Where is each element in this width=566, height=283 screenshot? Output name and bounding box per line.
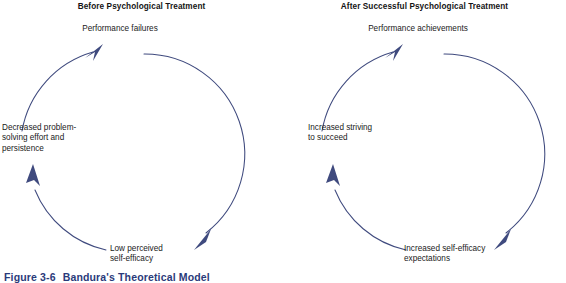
node-after-increased-striving: Increased striving to succeed: [308, 123, 400, 144]
node-before-decreased-effort: Decreased problem- solving effort and pe…: [2, 123, 94, 154]
node-after-performance-achievements: Performance achievements: [348, 24, 488, 34]
arrowhead-after-to-left: [326, 164, 340, 186]
node-after-increased-self-efficacy: Increased self-efficacy expectations: [404, 244, 524, 265]
arc-after-top-to-bottom: [444, 54, 545, 233]
panel-title-after: After Successful Psychological Treatment: [283, 2, 566, 11]
figure-caption-title: Bandura's Theoretical Model: [63, 271, 210, 283]
arc-before-left-to-top: [22, 52, 93, 131]
figure-caption: Figure 3-6Bandura's Theoretical Model: [4, 271, 210, 283]
node-before-low-self-efficacy: Low perceived self-efficacy: [110, 244, 202, 265]
arc-after-bottom-to-left: [335, 190, 406, 250]
arrowhead-after-to-top: [385, 44, 403, 61]
arrowhead-before-to-top: [85, 44, 103, 61]
node-before-performance-failures: Performance failures: [60, 24, 180, 34]
figure-caption-number: Figure 3-6: [4, 271, 56, 283]
arrowhead-before-to-left: [26, 164, 40, 186]
arc-before-top-to-bottom: [144, 54, 245, 233]
panel-title-before: Before Psychological Treatment: [0, 2, 283, 11]
arc-before-bottom-to-left: [35, 190, 106, 250]
arc-after-left-to-top: [322, 52, 393, 131]
